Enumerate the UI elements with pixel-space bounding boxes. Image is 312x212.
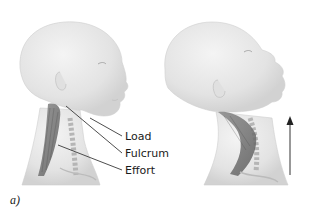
upward-arrow-icon — [287, 116, 294, 175]
callout-fulcrum: Fulcrum — [125, 148, 169, 160]
right-head-illustration — [165, 22, 288, 185]
callout-effort: Effort — [125, 165, 155, 177]
callout-load: Load — [125, 131, 151, 143]
lever-diagram: Load Fulcrum Effort a) — [0, 0, 312, 212]
diagram-art — [0, 0, 312, 212]
panel-label: a) — [10, 193, 20, 208]
left-head-illustration — [20, 22, 128, 185]
